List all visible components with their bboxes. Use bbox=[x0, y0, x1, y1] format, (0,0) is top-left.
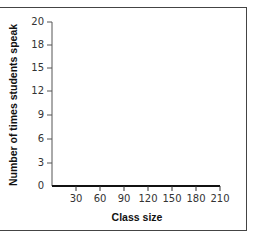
y-tick-label: 20 bbox=[24, 16, 44, 27]
y-tick-label: 3 bbox=[24, 157, 44, 168]
y-tick-label: 6 bbox=[24, 133, 44, 144]
y-tick-label: 18 bbox=[24, 39, 44, 50]
y-tick-label: 0 bbox=[24, 180, 44, 191]
plot-area bbox=[0, 0, 261, 242]
x-axis-title: Class size bbox=[112, 211, 163, 223]
x-tick-label: 210 bbox=[205, 193, 235, 204]
y-tick-label: 9 bbox=[24, 109, 44, 120]
y-tick-label: 15 bbox=[24, 62, 44, 73]
y-axis-title: Number of times students speak bbox=[7, 24, 19, 186]
y-tick-label: 12 bbox=[24, 85, 44, 96]
y-axis-ticks bbox=[47, 22, 52, 163]
